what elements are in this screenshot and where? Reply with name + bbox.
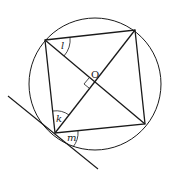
center-label: O — [91, 69, 99, 80]
angle-label-k: k — [56, 113, 62, 124]
tangent-line — [8, 96, 98, 169]
geometry-diagram: O l k m — [0, 0, 172, 181]
right-angle-marker — [84, 78, 89, 88]
angle-label-m: m — [67, 132, 76, 143]
angle-label-l: l — [61, 40, 64, 51]
diagonal-tr-bl — [55, 30, 135, 133]
angle-arc-l — [64, 37, 70, 56]
